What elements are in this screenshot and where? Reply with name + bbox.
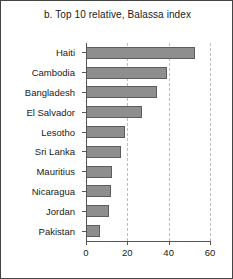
bar	[86, 166, 112, 178]
bar-row	[86, 221, 210, 241]
bar	[86, 47, 195, 59]
bar	[86, 106, 142, 118]
x-axis-tick	[210, 241, 211, 245]
x-axis-tick	[86, 241, 87, 245]
category-label: Lesotho	[1, 122, 81, 142]
x-axis-tick-label: 60	[205, 247, 216, 258]
bar	[86, 185, 111, 197]
chart-figure: b. Top 10 relative, Balassa index Haiti …	[0, 0, 233, 279]
bar-row	[86, 201, 210, 221]
x-axis-tick	[169, 241, 170, 245]
bar	[86, 225, 100, 237]
category-label: Jordan	[1, 201, 81, 221]
category-label: Cambodia	[1, 63, 81, 83]
bar-row	[86, 43, 210, 63]
x-axis-tick-label: 40	[163, 247, 174, 258]
bar-row	[86, 63, 210, 83]
bar	[86, 205, 109, 217]
chart-title: b. Top 10 relative, Balassa index	[1, 9, 233, 20]
category-label: Bangladesh	[1, 83, 81, 103]
bar	[86, 86, 157, 98]
bar-row	[86, 142, 210, 162]
x-axis-tick	[127, 241, 128, 245]
bar-row	[86, 83, 210, 103]
category-label: Haiti	[1, 43, 81, 63]
category-label: El Salvador	[1, 102, 81, 122]
category-label: Pakistan	[1, 221, 81, 241]
bar-row	[86, 182, 210, 202]
bar-series	[86, 43, 210, 241]
gridline	[210, 43, 211, 241]
bar-row	[86, 122, 210, 142]
y-axis-line	[86, 43, 87, 241]
bar	[86, 146, 121, 158]
category-label: Mauritius	[1, 162, 81, 182]
bar	[86, 67, 167, 79]
bar-row	[86, 102, 210, 122]
bar	[86, 126, 125, 138]
category-label: Nicaragua	[1, 182, 81, 202]
category-axis-labels: Haiti Cambodia Bangladesh El Salvador Le…	[1, 43, 81, 241]
x-axis-tick-label: 20	[122, 247, 133, 258]
category-label: Sri Lanka	[1, 142, 81, 162]
bar-row	[86, 162, 210, 182]
x-axis-tick-label: 0	[83, 247, 88, 258]
x-axis-ticks: 0204060	[86, 241, 210, 271]
plot-area	[86, 43, 210, 241]
